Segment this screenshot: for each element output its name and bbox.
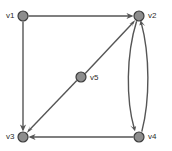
node-v3[interactable] <box>18 132 28 142</box>
edge-v5-to-v3 <box>27 81 77 133</box>
edge-v2-to-v4-curve <box>128 21 136 129</box>
node-label-v1: v1 <box>6 11 14 20</box>
edge-v4-to-v3 <box>29 134 134 140</box>
node-label-v3: v3 <box>6 132 14 141</box>
edge-v4-to-v2 <box>139 20 147 131</box>
node-label-v2: v2 <box>148 11 156 20</box>
graph-canvas <box>0 0 172 151</box>
edge-v5-to-v3-line <box>28 81 76 132</box>
edge-v1-to-v3 <box>20 22 26 132</box>
edge-v4-to-v2-curve <box>141 23 148 132</box>
directed-graph-figure: v1 v2 v3 v4 v5 <box>0 0 172 151</box>
edge-v5-to-v2-line <box>85 22 133 74</box>
edge-v1-to-v2 <box>29 13 134 19</box>
node-v2[interactable] <box>134 11 144 21</box>
node-label-v5: v5 <box>90 73 98 82</box>
node-v1[interactable] <box>18 11 28 21</box>
edge-v5-to-v2 <box>85 20 135 73</box>
edge-v2-to-v4 <box>128 21 136 131</box>
node-v4[interactable] <box>134 132 144 142</box>
node-label-v4: v4 <box>148 132 156 141</box>
node-v5[interactable] <box>76 72 86 82</box>
